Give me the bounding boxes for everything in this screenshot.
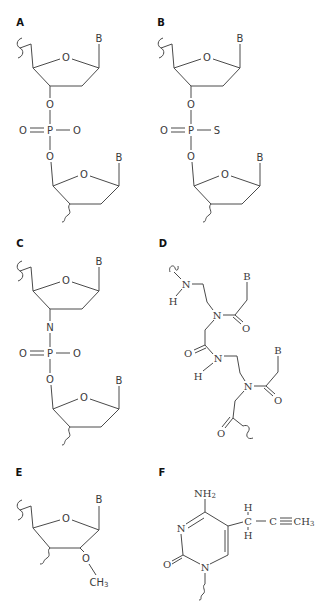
base-label: B (96, 494, 103, 505)
carbonyl-oxygen: O (242, 323, 250, 334)
base-label: B (257, 152, 264, 163)
double-bond-oxygen: O (160, 125, 168, 136)
methyl-group: CH3 (294, 516, 315, 529)
carbonyl-oxygen: O (163, 559, 171, 570)
ring-oxygen: O (62, 275, 70, 286)
amide-hydrogen: H (194, 371, 203, 382)
ring-oxygen: O (62, 52, 70, 63)
oligonucleotide-modifications-figure: A O B O P O O O O B (0, 0, 326, 606)
linking-oxygen: O (46, 374, 54, 385)
base-label: B (96, 33, 103, 44)
ring-oxygen: O (221, 169, 229, 180)
base-label: B (96, 256, 103, 267)
panel-d: D N H N O B O N H N O (159, 238, 282, 439)
linking-oxygen: O (187, 151, 195, 162)
linking-oxygen: O (46, 151, 54, 162)
methylene-carbon: C (244, 516, 252, 527)
base-label: B (116, 152, 123, 163)
methyl-group: CH3 (90, 577, 109, 590)
methylene-hydrogen-bottom: H (244, 530, 253, 541)
amide-nitrogen: N (214, 353, 223, 364)
linking-oxygen: O (187, 99, 195, 110)
amine-hydrogen: H (169, 296, 178, 307)
alkyne-carbon: C (269, 516, 277, 527)
ring-nitrogen-3: N (177, 523, 186, 534)
ring-oxygen: O (80, 392, 88, 403)
ring-oxygen: O (62, 513, 70, 524)
phosphorus: P (47, 348, 53, 359)
wavy-bond-icon (203, 204, 211, 222)
panel-label-c: C (16, 238, 23, 249)
phosphorus: P (188, 125, 194, 136)
wavy-bond-icon (199, 584, 205, 600)
base-label: B (243, 271, 250, 282)
panel-label-f: F (159, 467, 166, 478)
double-bond-oxygen: O (19, 348, 27, 359)
wavy-bond-icon (243, 425, 253, 438)
panel-f: F NH2 N N O C H H C CH3 (159, 467, 315, 601)
methylene-hydrogen-top: H (244, 502, 253, 513)
amino-group: NH2 (194, 488, 216, 501)
single-bond-oxygen: O (73, 125, 81, 136)
amine-nitrogen: N (182, 279, 191, 290)
panel-label-b: B (157, 17, 165, 28)
wavy-bond-icon (40, 548, 50, 564)
wavy-bond-icon (170, 266, 179, 272)
panel-label-a: A (16, 17, 24, 28)
double-bond-oxygen: O (19, 125, 27, 136)
panel-a: A O B O P O O O O B (16, 17, 122, 223)
panel-c: C O B N P O O O O B (16, 238, 122, 446)
carbonyl-oxygen: O (184, 348, 192, 359)
linking-oxygen: O (46, 99, 54, 110)
ring-oxygen: O (80, 169, 88, 180)
base-label: B (237, 33, 244, 44)
wavy-bond-icon (62, 204, 70, 222)
wavy-bond-icon (62, 427, 70, 445)
carbonyl-oxygen: O (217, 428, 225, 439)
base-label: B (116, 375, 123, 386)
panel-label-d: D (159, 238, 167, 249)
methoxy-oxygen: O (82, 553, 90, 564)
panel-b: B O B O P O S O O B (157, 17, 263, 223)
phosphorus: P (47, 125, 53, 136)
backbone-nitrogen: N (213, 310, 222, 321)
backbone-nitrogen: N (244, 381, 253, 392)
base-label: B (274, 345, 281, 356)
panel-label-e: E (16, 467, 23, 478)
panel-e: E O B O CH3 (16, 467, 109, 590)
carbonyl-oxygen: O (274, 395, 282, 406)
ring-nitrogen-1: N (201, 562, 210, 573)
sulfur: S (214, 125, 220, 136)
linking-nitrogen: N (46, 322, 53, 333)
ring-oxygen: O (203, 52, 211, 63)
single-bond-oxygen: O (73, 348, 81, 359)
